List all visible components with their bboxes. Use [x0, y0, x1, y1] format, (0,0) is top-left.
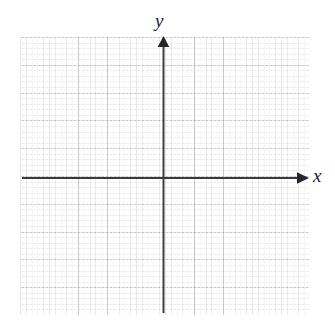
y-axis-arrowhead-icon — [158, 36, 170, 47]
coordinate-grid-figure: y x — [0, 0, 335, 326]
x-axis-arrowhead-icon — [297, 172, 309, 184]
y-axis — [158, 36, 170, 313]
x-axis-label: x — [313, 166, 321, 185]
x-axis — [22, 172, 309, 184]
axes-layer — [0, 0, 335, 326]
y-axis-label: y — [155, 11, 163, 30]
